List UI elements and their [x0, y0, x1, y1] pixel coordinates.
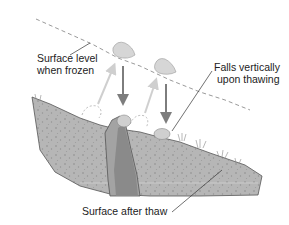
stone-ground-2	[154, 129, 170, 140]
label-line: Surface level	[37, 52, 98, 64]
heave-arrow-1	[98, 68, 113, 104]
soil-body	[32, 97, 262, 196]
label-falls-vertically: Falls vertically upon thawing	[214, 61, 280, 85]
frost-creep-diagram	[0, 0, 289, 225]
ghost-stone-2	[130, 115, 148, 128]
label-line: Surface after thaw	[82, 205, 167, 217]
stone-frozen-2	[155, 59, 177, 75]
leader-falls	[172, 71, 212, 131]
label-surface-frozen: Surface level when frozen	[37, 52, 98, 76]
label-line: upon thawing	[214, 73, 280, 85]
ghost-stone-1	[82, 106, 101, 118]
label-surface-after-thaw: Surface after thaw	[82, 205, 167, 217]
stone-frozen-1	[113, 42, 135, 58]
heave-arrow-2	[145, 83, 155, 113]
label-line: when frozen	[37, 64, 98, 76]
label-line: Falls vertically	[214, 61, 280, 73]
stone-ground-1	[117, 115, 131, 127]
